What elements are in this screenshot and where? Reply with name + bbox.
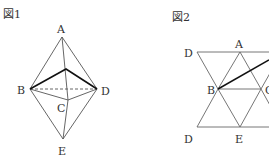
label-c: C (57, 102, 65, 115)
label-d-bottom: D (184, 133, 193, 146)
label-e: E (235, 133, 243, 146)
label-d-top: D (184, 47, 193, 60)
figure-1-caption: 図1 (3, 8, 21, 21)
label-d: D (101, 85, 110, 98)
figures-canvas: 図1 A B C D E 図2 (0, 0, 269, 159)
figure-1: 図1 A B C D E (3, 8, 110, 158)
label-b: B (17, 84, 25, 97)
label-c: C (265, 84, 269, 97)
label-a: A (234, 38, 244, 51)
label-e: E (58, 145, 66, 158)
bold-segment (218, 60, 269, 89)
figure-2: 図2 D A B C D E (172, 11, 269, 146)
label-a: A (56, 23, 66, 36)
figure-2-caption: 図2 (172, 11, 190, 24)
label-b: B (207, 84, 215, 97)
